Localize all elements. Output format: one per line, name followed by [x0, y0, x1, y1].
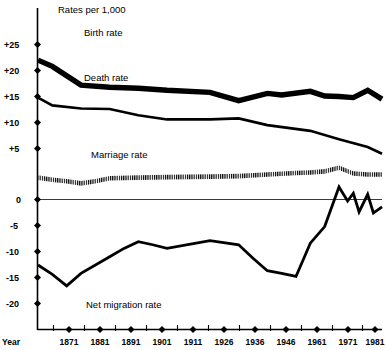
vital-rates-chart: +25 +20 +15 +10 +5 0 -5 -10 -15 -20	[0, 0, 386, 350]
label-net-migration: Net migration rate	[86, 299, 162, 310]
x-label-1981: 1981	[366, 337, 385, 347]
y-label-0: 0	[16, 195, 21, 205]
x-label-1971: 1971	[339, 337, 358, 347]
x-axis-caption: Year	[2, 337, 21, 347]
y-label-15: +15	[4, 92, 19, 102]
label-marriage-rate: Marriage rate	[91, 149, 148, 160]
label-birth-rate: Birth rate	[84, 27, 123, 38]
x-label-1946: 1946	[277, 337, 296, 347]
x-label-1901: 1901	[153, 337, 172, 347]
x-label-1911: 1911	[184, 337, 203, 347]
y-label-20: +20	[4, 66, 19, 76]
y-label-m15: -15	[6, 273, 19, 283]
x-label-1961: 1961	[308, 337, 327, 347]
x-label-1871: 1871	[60, 337, 79, 347]
x-label-1891: 1891	[122, 337, 141, 347]
y-label-10: +10	[4, 118, 19, 128]
label-death-rate: Death rate	[84, 72, 128, 83]
x-label-1881: 1881	[91, 337, 110, 347]
y-label-m5: -5	[10, 221, 18, 231]
y-label-m20: -20	[6, 299, 19, 309]
chart-title: Rates per 1,000	[58, 4, 126, 15]
y-label-m10: -10	[6, 247, 19, 257]
chart-canvas: +25 +20 +15 +10 +5 0 -5 -10 -15 -20	[0, 0, 386, 350]
x-label-1936: 1936	[246, 337, 265, 347]
y-label-25: +25	[4, 40, 19, 50]
y-label-5: +5	[9, 144, 19, 154]
x-label-1926: 1926	[215, 337, 234, 347]
